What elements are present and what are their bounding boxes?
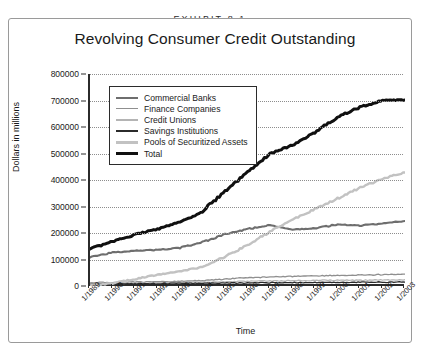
y-tick-label: 300000: [51, 202, 79, 212]
legend-item: Finance Companies: [116, 103, 248, 114]
legend-label: Finance Companies: [144, 104, 220, 114]
y-tick-label: 800000: [51, 69, 79, 79]
legend-item: Total: [116, 148, 248, 159]
gridline: [90, 260, 403, 261]
legend-swatch: [116, 108, 138, 109]
y-tick-label: 400000: [51, 175, 79, 185]
gridline: [90, 74, 403, 75]
chart-title: Revolving Consumer Credit Outstanding: [0, 30, 430, 48]
y-tick-mark: [81, 180, 86, 181]
y-tick-label: 600000: [51, 122, 79, 132]
legend-label: Credit Unions: [144, 115, 196, 125]
gridline: [90, 207, 403, 208]
y-tick-mark: [81, 206, 86, 207]
legend-swatch: [116, 97, 138, 99]
x-axis-labels: 1/19891/19901/19911/19921/19931/19941/19…: [88, 288, 403, 328]
y-axis-labels: 8000007000006000005000004000003000002000…: [0, 74, 86, 286]
legend-swatch: [116, 141, 138, 143]
y-tick-mark: [81, 100, 86, 101]
y-tick-label: 100000: [51, 255, 79, 265]
y-tick-mark: [81, 286, 86, 287]
y-tick-mark: [81, 153, 86, 154]
legend-item: Pools of Securitized Assets: [116, 137, 248, 148]
y-tick-mark: [81, 259, 86, 260]
chart-legend: Commercial BanksFinance CompaniesCredit …: [109, 86, 257, 165]
legend-label: Pools of Securitized Assets: [144, 137, 248, 147]
legend-swatch: [116, 130, 138, 131]
y-tick-label: 0: [74, 281, 79, 291]
gridline: [90, 180, 403, 181]
y-tick-label: 700000: [51, 96, 79, 106]
legend-item: Credit Unions: [116, 114, 248, 125]
gridline: [90, 233, 403, 234]
legend-label: Total: [144, 149, 162, 159]
legend-item: Savings Institutions: [116, 126, 248, 137]
legend-label: Commercial Banks: [144, 93, 216, 103]
y-tick-mark: [81, 74, 86, 75]
legend-swatch: [116, 152, 138, 155]
y-tick-mark: [81, 127, 86, 128]
legend-label: Savings Institutions: [144, 126, 218, 136]
legend-item: Commercial Banks: [116, 92, 248, 103]
y-tick-mark: [81, 233, 86, 234]
y-tick-label: 500000: [51, 149, 79, 159]
y-tick-label: 200000: [51, 228, 79, 238]
x-axis-title: Time: [88, 326, 403, 336]
legend-swatch: [116, 119, 138, 120]
